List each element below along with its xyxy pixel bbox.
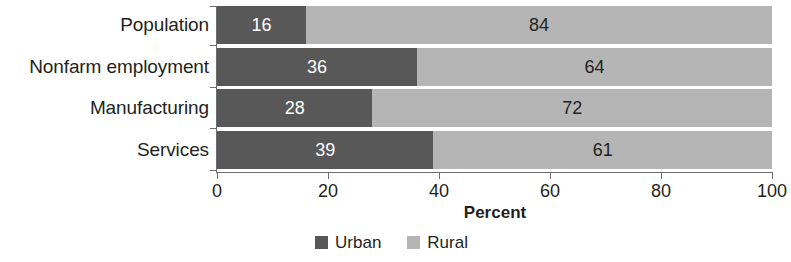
- bar-segment-urban: 36: [217, 48, 417, 86]
- x-axis-line: [217, 172, 773, 173]
- bar-segment-urban: 39: [217, 131, 433, 169]
- bar-row: 3961: [217, 131, 772, 169]
- y-axis-tick-2: [210, 128, 217, 129]
- bar-segment-rural: 61: [433, 131, 772, 169]
- bar-row: 2872: [217, 89, 772, 127]
- x-axis-tick-0: [217, 173, 218, 179]
- y-axis-tick-top: [210, 6, 217, 7]
- x-axis-tick-label-3: 60: [515, 180, 585, 202]
- chart-legend: UrbanRural: [0, 234, 783, 251]
- bar-segment-rural: 64: [417, 48, 772, 86]
- plot-area: 1684366428723961: [217, 6, 772, 172]
- bar-segment-rural: 84: [306, 6, 772, 44]
- x-axis-tick-label-2: 40: [404, 180, 474, 202]
- bar-row: 3664: [217, 48, 772, 86]
- bar-value-urban: 16: [251, 16, 271, 34]
- x-axis-title: Percent: [217, 203, 773, 223]
- y-axis-tick-3: [210, 170, 217, 171]
- y-axis-tick-0: [210, 45, 217, 46]
- legend-item-rural: Rural: [407, 234, 468, 251]
- bar-segment-rural: 72: [372, 89, 772, 127]
- bar-row: 1684: [217, 6, 772, 44]
- y-axis-tick-1: [210, 87, 217, 88]
- y-axis-label-2: Manufacturing: [0, 89, 209, 127]
- y-axis-category-labels: PopulationNonfarm employmentManufacturin…: [0, 6, 209, 172]
- x-axis-tick-label-5: 100: [737, 180, 791, 202]
- bar-value-rural: 72: [562, 99, 582, 117]
- legend-label-rural: Rural: [427, 234, 468, 251]
- bar-value-rural: 64: [584, 58, 604, 76]
- x-axis-tick-label-0: 0: [182, 180, 252, 202]
- x-axis-tick-4: [661, 173, 662, 179]
- legend-label-urban: Urban: [335, 234, 381, 251]
- y-axis-line: [216, 6, 217, 173]
- legend-item-urban: Urban: [315, 234, 381, 251]
- x-axis-tick-label-4: 80: [626, 180, 696, 202]
- x-axis-tick-3: [550, 173, 551, 179]
- bar-value-urban: 39: [315, 141, 335, 159]
- x-axis-tick-1: [328, 173, 329, 179]
- legend-swatch-rural: [407, 236, 420, 249]
- x-axis-tick-5: [772, 173, 773, 179]
- bar-value-urban: 36: [307, 58, 327, 76]
- y-axis-label-0: Population: [0, 6, 209, 44]
- bar-segment-urban: 16: [217, 6, 306, 44]
- bar-value-rural: 84: [529, 16, 549, 34]
- bar-value-urban: 28: [285, 99, 305, 117]
- legend-swatch-urban: [315, 236, 328, 249]
- bar-value-rural: 61: [593, 141, 613, 159]
- y-axis-label-3: Services: [0, 131, 209, 169]
- bar-segment-urban: 28: [217, 89, 372, 127]
- y-axis-label-1: Nonfarm employment: [0, 48, 209, 86]
- x-axis-tick-label-1: 20: [293, 180, 363, 202]
- x-axis-tick-2: [439, 173, 440, 179]
